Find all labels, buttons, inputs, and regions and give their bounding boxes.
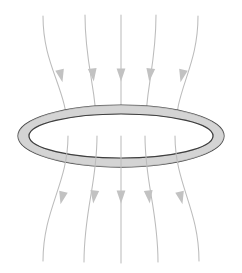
magnetic-flux-diagram [0,0,242,273]
diagram-canvas [0,0,242,273]
